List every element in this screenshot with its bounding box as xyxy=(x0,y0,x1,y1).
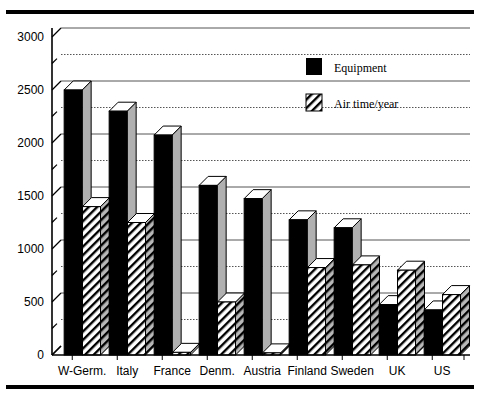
x-axis-tick-label: US xyxy=(434,364,451,378)
x-axis-tick-label: Sweden xyxy=(330,364,373,378)
x-axis-tick-label: Italy xyxy=(116,364,138,378)
legend-label-air-time: Air time/year xyxy=(334,97,398,111)
y-axis-tick xyxy=(52,28,61,37)
y-axis-tick xyxy=(52,346,61,355)
bar-chart-canvas: 050010001500200025003000 W-Germ.ItalyFra… xyxy=(0,14,480,385)
bottom-divider-rule xyxy=(6,385,474,389)
y-axis-tick-label: 2000 xyxy=(17,136,44,150)
y-axis-tick-labels: 050010001500200025003000 xyxy=(17,30,44,362)
y-axis-tick xyxy=(52,240,61,249)
bars-group xyxy=(64,81,469,355)
x-axis-tick-label: W-Germ. xyxy=(58,364,106,378)
y-axis-tick-label: 1500 xyxy=(17,189,44,203)
legend-swatch-equipment xyxy=(306,58,322,75)
y-axis-tick-label: 0 xyxy=(37,348,44,362)
y-axis-tick-label: 500 xyxy=(24,295,44,309)
y-axis-tick xyxy=(52,134,61,143)
x-axis-tick-label: France xyxy=(153,364,191,378)
chart-figure: 050010001500200025003000 W-Germ.ItalyFra… xyxy=(0,0,480,399)
bar-air-time xyxy=(443,286,470,355)
legend-label-equipment: Equipment xyxy=(334,61,387,75)
y-axis-tick-label: 3000 xyxy=(17,30,44,44)
chart-legend: Equipment Air time/year xyxy=(306,58,398,111)
bar-air-time xyxy=(308,259,335,355)
x-axis-tick-label: UK xyxy=(389,364,406,378)
x-axis-tick-label: Finland xyxy=(287,364,326,378)
x-axis-tick-label: Denm. xyxy=(199,364,234,378)
bar-air-time xyxy=(218,293,245,355)
legend-swatch-air-time xyxy=(306,94,322,111)
y-axis-tick xyxy=(52,187,61,196)
x-axis-tick-labels: W-Germ.ItalyFranceDenm.AustriaFinlandSwe… xyxy=(58,364,451,378)
bar-air-time xyxy=(83,198,110,355)
bar-air-time xyxy=(128,214,155,356)
y-axis-tick-label: 1000 xyxy=(17,242,44,256)
y-axis-tick xyxy=(52,293,61,302)
x-axis-tick-label: Austria xyxy=(243,364,281,378)
bar-air-time xyxy=(353,256,380,355)
bar-equipment xyxy=(244,190,271,355)
bar-air-time xyxy=(398,261,425,355)
y-axis-tick-label: 2500 xyxy=(17,83,44,97)
y-axis-tick xyxy=(52,81,61,90)
bar-equipment xyxy=(154,126,181,355)
